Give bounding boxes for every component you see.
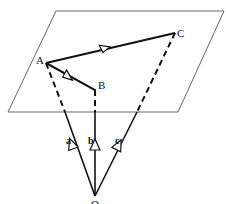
label-vector-a: a [66,135,71,146]
arrow-AB-icon [63,70,76,82]
label-vector-b: b [88,135,94,146]
label-B: B [98,79,105,91]
arrow-AC-icon [99,43,111,53]
vector-a-visible [65,112,95,196]
label-O: O [91,198,99,204]
segment-AC [46,33,175,63]
label-C: C [177,27,184,39]
vector-plane-diagram: A B C O a b c [0,0,226,204]
label-A: A [36,54,44,66]
vector-a-hidden [46,63,65,112]
label-vector-c: c [115,135,120,146]
vector-c-visible [95,112,137,196]
vector-c-hidden [137,33,175,112]
